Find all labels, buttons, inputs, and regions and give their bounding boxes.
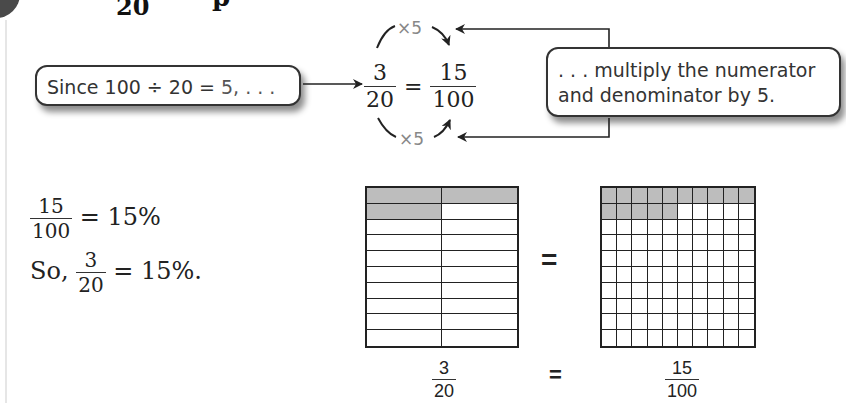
grid-cell (602, 330, 617, 346)
grid-cell (663, 220, 678, 236)
grid-cell (367, 251, 442, 267)
label-fraction-15-100: 15 100 (665, 358, 699, 400)
grid-cell (739, 283, 754, 299)
grid-cell (663, 267, 678, 283)
grid-cell (693, 283, 708, 299)
grid-cell-shaded (367, 188, 442, 204)
grid-cell (648, 314, 663, 330)
grid-cell (617, 330, 632, 346)
grid-cell (632, 267, 647, 283)
fraction-15-100: 15 100 (30, 196, 72, 241)
grid-cell (724, 251, 739, 267)
grid-cell (632, 220, 647, 236)
top-multiplier: ×5 (397, 18, 422, 38)
grid-cell (442, 267, 517, 283)
grid-cell (442, 330, 517, 346)
grid-cell (678, 220, 693, 236)
grid-cell (367, 220, 442, 236)
grid-cell (678, 283, 693, 299)
grid-cell (602, 299, 617, 315)
grid-cell (693, 314, 708, 330)
grid-cell (617, 235, 632, 251)
grid-cell (367, 314, 442, 330)
grid-cell (442, 235, 517, 251)
grid-cell (739, 220, 754, 236)
grid-cell-shaded (663, 188, 678, 204)
grid-cell (708, 283, 723, 299)
grid-cell (442, 220, 517, 236)
grid-cell-shaded (648, 204, 663, 220)
grid-cell (678, 204, 693, 220)
grid-cell-shaded (367, 204, 442, 220)
grid-cell-shaded (617, 204, 632, 220)
grid-cell (678, 251, 693, 267)
work-line-1: 15 100 = 15% (30, 196, 161, 241)
grid-cell (724, 204, 739, 220)
grid-cell (663, 283, 678, 299)
grid-cell (693, 330, 708, 346)
grid-cell (693, 220, 708, 236)
grid-cell (367, 235, 442, 251)
equivalent-fraction-equation: 3 20 = 15 100 (364, 62, 476, 111)
grid-cell (648, 251, 663, 267)
grid-cell (693, 299, 708, 315)
grid-cell (367, 267, 442, 283)
grid-cell-shaded (739, 188, 754, 204)
grid-cell (648, 283, 663, 299)
grid-cell (663, 235, 678, 251)
grid-cell (708, 314, 723, 330)
grid-cell (648, 235, 663, 251)
grid-cell (678, 267, 693, 283)
grid-cell (739, 251, 754, 267)
grid-cell (617, 220, 632, 236)
grid-cell (678, 314, 693, 330)
grid-cell (632, 299, 647, 315)
grid-cell (739, 330, 754, 346)
grid-cell (442, 204, 517, 220)
grid-cell-shaded (632, 188, 647, 204)
grid-cell (648, 267, 663, 283)
hundredths-grid-model (600, 186, 756, 348)
grid-cell (693, 267, 708, 283)
grid-cell (663, 314, 678, 330)
grid-cell (678, 235, 693, 251)
grid-cell-shaded (617, 188, 632, 204)
grid-cell (632, 251, 647, 267)
grid-cell-shaded (632, 204, 647, 220)
grid-cell (739, 204, 754, 220)
grid-cell (739, 299, 754, 315)
grid-cell (678, 330, 693, 346)
grid-cell (663, 251, 678, 267)
grid-cell-shaded (602, 204, 617, 220)
grid-cell (708, 330, 723, 346)
grid-cell (632, 314, 647, 330)
grid-cell (648, 299, 663, 315)
grid-cell-shaded (708, 188, 723, 204)
grid-cell (617, 251, 632, 267)
fraction-3-20: 3 20 (76, 250, 105, 295)
grid-cell (663, 330, 678, 346)
grid-cell (724, 267, 739, 283)
grid-cell (724, 299, 739, 315)
grid-cell (708, 220, 723, 236)
grid-cell (602, 283, 617, 299)
grid-cell (693, 235, 708, 251)
grid-cell (602, 220, 617, 236)
equals-sign: = (404, 74, 422, 99)
grid-cell (602, 251, 617, 267)
grid-cell (693, 251, 708, 267)
label-fraction-3-20: 3 20 (432, 358, 456, 400)
grid-cell (442, 251, 517, 267)
grid-cell (617, 314, 632, 330)
grid-cell (663, 299, 678, 315)
grid-cell (442, 299, 517, 315)
grid-cell (632, 283, 647, 299)
grid-cell (617, 299, 632, 315)
grid-cell (724, 220, 739, 236)
grid-cell (739, 235, 754, 251)
grid-cell (724, 314, 739, 330)
models-equals-sign: = (541, 244, 557, 276)
grid-cell (602, 314, 617, 330)
grid-cell-shaded (724, 188, 739, 204)
grid-cell (739, 314, 754, 330)
